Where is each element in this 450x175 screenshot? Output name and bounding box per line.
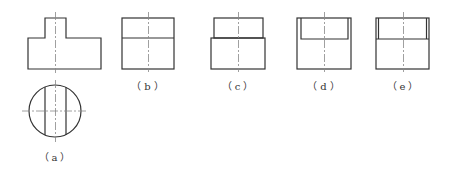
fig-e-label: （e） [387, 78, 422, 93]
fig-d-label: （d） [307, 78, 342, 93]
fig-c-lower [211, 38, 265, 69]
fig-a-label: （a） [39, 149, 74, 164]
fig-b-label: （b） [131, 78, 166, 93]
fig-d-outline [297, 18, 351, 69]
fig-a-front-outline [28, 18, 101, 69]
fig-b-outline [122, 18, 174, 69]
fig-c-label: （c） [222, 78, 257, 93]
fig-e-outline [376, 18, 429, 69]
